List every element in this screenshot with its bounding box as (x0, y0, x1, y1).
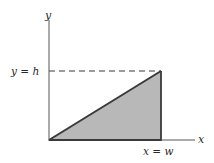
y-axis-label: y (44, 9, 52, 22)
x-axis-label: x (198, 133, 205, 146)
height-annotation: y = h (10, 65, 39, 77)
width-annotation: x = w (143, 145, 173, 157)
diagram-canvas: y x y = h x = w (0, 0, 214, 163)
